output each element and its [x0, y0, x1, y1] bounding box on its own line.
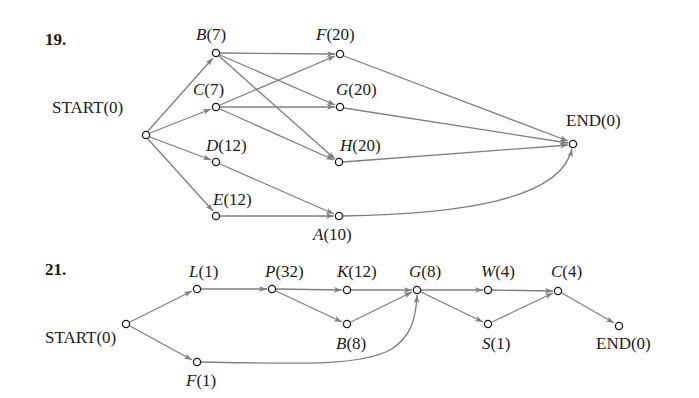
- node-w: [484, 286, 491, 293]
- label-e: E(12): [212, 190, 252, 209]
- edge-b-g: [351, 292, 412, 322]
- label-l: L(1): [188, 262, 218, 281]
- edge-b-f: [220, 53, 335, 54]
- node-p: [268, 285, 275, 292]
- edge-s-c: [492, 293, 553, 322]
- diagram-21-nodes: [122, 285, 622, 365]
- node-b: [343, 320, 350, 327]
- node-c: [554, 287, 561, 294]
- label-start: START(0): [45, 328, 116, 347]
- node-a: [335, 212, 342, 219]
- label-p: P(32): [264, 262, 304, 281]
- node-f: [336, 50, 343, 57]
- node-k: [343, 286, 350, 293]
- label-d: D(12): [205, 136, 247, 155]
- edge-start-e: [148, 139, 213, 211]
- node-e: [212, 212, 219, 219]
- edge-start-f: [130, 326, 192, 360]
- label-c: C(4): [551, 262, 582, 281]
- label-s: S(1): [482, 334, 510, 353]
- node-h: [335, 158, 342, 165]
- edge-p-b: [276, 291, 342, 322]
- diagram-21-edges: [130, 289, 614, 363]
- edge-g-s: [421, 292, 483, 322]
- network-diagrams-canvas: 19.: [0, 0, 699, 398]
- label-c: C(7): [193, 80, 224, 99]
- edge-c-end: [562, 293, 614, 323]
- diagram-21: 21.: [45, 260, 651, 390]
- diagram-19-labels: START(0) B(7) C(7) D(12) E(12) F(20) G(2…: [52, 25, 621, 244]
- node-c: [212, 103, 219, 110]
- problem-number-19: 19.: [45, 30, 66, 49]
- label-b: B(8): [336, 334, 366, 353]
- edge-f-end: [344, 56, 568, 141]
- label-start: START(0): [52, 98, 123, 117]
- label-k: K(12): [336, 262, 377, 281]
- edge-start-c: [150, 109, 211, 133]
- label-f: F(20): [315, 25, 355, 44]
- label-end: END(0): [566, 111, 621, 130]
- node-s: [484, 320, 491, 327]
- label-w: W(4): [481, 262, 515, 281]
- node-start: [142, 131, 149, 138]
- edge-start-l: [130, 291, 192, 322]
- edge-w-c: [492, 290, 553, 291]
- node-start: [122, 320, 129, 327]
- label-b: B(7): [196, 25, 226, 44]
- node-end: [615, 322, 622, 329]
- problem-number-21: 21.: [45, 260, 66, 279]
- label-g: G(8): [409, 262, 441, 281]
- node-d: [212, 158, 219, 165]
- node-l: [193, 285, 200, 292]
- node-g: [413, 286, 420, 293]
- diagram-19-edges: [148, 53, 572, 216]
- edge-start-d: [150, 137, 211, 160]
- label-end: END(0): [596, 334, 651, 353]
- edge-p-k: [276, 289, 342, 290]
- label-g: G(20): [336, 80, 377, 99]
- node-b: [212, 49, 219, 56]
- node-g: [336, 103, 343, 110]
- label-h: H(20): [339, 136, 381, 155]
- label-a: A(10): [312, 225, 352, 244]
- node-f: [193, 358, 200, 365]
- diagram-19: 19.: [45, 25, 621, 244]
- node-end: [569, 140, 576, 147]
- label-f: F(1): [185, 371, 216, 390]
